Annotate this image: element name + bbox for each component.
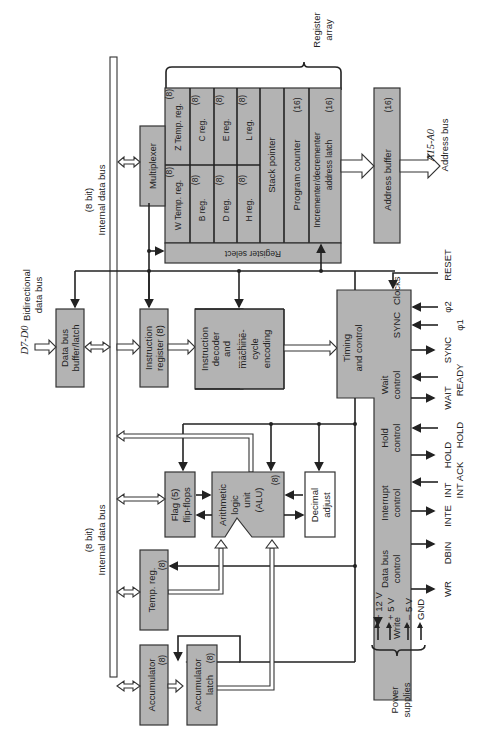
svg-text:(16): (16): [324, 97, 334, 112]
acc-bus-arrow: [117, 681, 140, 691]
svg-text:Data bus: Data bus: [59, 329, 70, 367]
address-latch-to-buffer: [341, 154, 374, 178]
alu-out-bus: [117, 431, 253, 472]
svg-text:A15-A0: A15-A0: [425, 128, 436, 162]
svg-text:DBIN: DBIN: [442, 542, 453, 565]
c-reg: C reg.: [197, 118, 207, 141]
svg-text:register (8): register (8): [154, 325, 165, 371]
svg-text:cycle: cycle: [249, 338, 260, 360]
svg-text:unit: unit: [241, 492, 252, 508]
svg-text:Arithmetic: Arithmetic: [217, 484, 228, 526]
svg-text:Interrupt: Interrupt: [379, 485, 390, 521]
svg-text:Flag (5): Flag (5): [169, 489, 180, 522]
w-temp-reg: W Temp. reg.: [173, 180, 183, 230]
svg-text:Internal data bus: Internal data bus: [96, 504, 107, 575]
z-temp-reg: Z Temp. reg.: [173, 103, 183, 151]
svg-text:+ 5 V: + 5 V: [385, 597, 396, 620]
svg-text:(16): (16): [383, 97, 393, 112]
data-pins-label: D7-D0: [19, 325, 30, 356]
svg-text:(8): (8): [237, 95, 247, 106]
acc-to-latch-arrow: [168, 680, 183, 692]
svg-text:WR: WR: [442, 581, 453, 597]
svg-text:Register select: Register select: [224, 249, 281, 259]
inc-dec-latch: Incrementer/decrementer: [312, 132, 322, 228]
svg-text:and control: and control: [353, 324, 364, 371]
svg-text:logic: logic: [229, 495, 240, 515]
svg-text:encoding: encoding: [261, 330, 272, 369]
svg-text:flip-flops: flip-flops: [181, 487, 192, 523]
register-array-label: Register array: [311, 12, 334, 47]
internal-data-bus: [110, 57, 117, 677]
svg-text:(8): (8): [157, 560, 167, 571]
svg-text:control: control: [391, 489, 402, 518]
b-reg: B reg.: [197, 199, 207, 222]
stack-pointer: Stack pointer: [266, 137, 277, 192]
svg-text:Register: Register: [311, 12, 322, 47]
block-diagram: (8 bit) Internal data bus (8 bit) Intern…: [0, 0, 479, 749]
svg-text:SYNC: SYNC: [442, 337, 453, 364]
svg-text:Address buffer: Address buffer: [382, 149, 393, 211]
svg-text:Accumulator: Accumulator: [192, 659, 203, 712]
svg-text:READY: READY: [454, 363, 465, 396]
svg-text:address latch: address latch: [324, 139, 334, 190]
mux-bus-arrow: [118, 157, 140, 167]
svg-text:supplies: supplies: [401, 682, 412, 717]
svg-text:data bus: data bus: [33, 277, 44, 314]
svg-text:Wait: Wait: [379, 375, 390, 394]
data-buffer-bus-arrow: [85, 342, 110, 352]
svg-text:Timing: Timing: [341, 334, 352, 362]
svg-text:adjust: adjust: [321, 492, 332, 518]
bus-label-top: (8 bit) Internal data bus: [83, 164, 107, 235]
svg-text:(8): (8): [190, 175, 200, 186]
svg-text:(8): (8): [237, 175, 247, 186]
bus-label-bottom: (8 bit) Internal data bus: [83, 504, 107, 575]
svg-text:Instruction: Instruction: [143, 326, 154, 370]
svg-text:Address bus: Address bus: [439, 118, 450, 171]
svg-text:buffer/latch: buffer/latch: [70, 325, 81, 372]
svg-text:array: array: [323, 19, 334, 41]
svg-text:control: control: [391, 371, 402, 400]
svg-text:(8): (8): [214, 95, 224, 106]
register-array-brace: [166, 62, 341, 90]
bidirectional-label: Bidirectional data bus: [21, 269, 44, 321]
svg-text:φ1: φ1: [454, 319, 465, 330]
svg-text:(8 bit): (8 bit): [83, 528, 94, 552]
svg-text:(8): (8): [205, 653, 215, 664]
svg-text:+ 12 V: + 12 V: [373, 592, 384, 620]
svg-text:SYNC: SYNC: [391, 312, 402, 339]
svg-text:Multiplexer: Multiplexer: [147, 143, 158, 189]
l-reg: L reg.: [244, 119, 254, 140]
svg-text:(8): (8): [164, 89, 174, 100]
svg-text:D7-D0: D7-D0: [19, 325, 30, 356]
svg-text:(8): (8): [270, 475, 280, 486]
svg-text:Instruction: Instruction: [199, 327, 210, 371]
temp-to-alu-bus: [168, 548, 223, 594]
flags-bus-arrow: [117, 494, 165, 504]
svg-text:(8): (8): [214, 175, 224, 186]
svg-text:Hold: Hold: [379, 428, 390, 448]
svg-text:Accumulator: Accumulator: [146, 659, 157, 712]
svg-text:Bidirectional: Bidirectional: [21, 269, 32, 321]
bus-to-ir-arrow: [117, 340, 140, 354]
svg-text:(ALU): (ALU): [253, 488, 264, 513]
svg-text:(16): (16): [292, 97, 302, 112]
decoder-to-timing-arrow: [284, 341, 337, 355]
svg-text:(8): (8): [157, 655, 167, 666]
svg-text:RESET: RESET: [442, 249, 453, 281]
svg-text:GND: GND: [415, 599, 426, 620]
d-reg: D reg.: [221, 198, 231, 221]
svg-text:control: control: [391, 555, 402, 584]
svg-text:(8): (8): [190, 95, 200, 106]
svg-text:WAIT: WAIT: [442, 386, 453, 410]
svg-text:latch: latch: [204, 675, 215, 695]
svg-text:φ2: φ2: [442, 301, 453, 312]
svg-text:machine-: machine-: [237, 329, 248, 368]
h-reg: H reg.: [244, 198, 254, 221]
program-counter: Program counter: [291, 140, 302, 211]
svg-text:and: and: [221, 341, 232, 357]
svg-text:INTE: INTE: [442, 505, 453, 527]
svg-text:(8 bit): (8 bit): [83, 188, 94, 212]
svg-text:INT ACK: INT ACK: [454, 461, 465, 498]
data-in-arrow: [35, 340, 56, 354]
svg-text:Internal data bus: Internal data bus: [96, 164, 107, 235]
